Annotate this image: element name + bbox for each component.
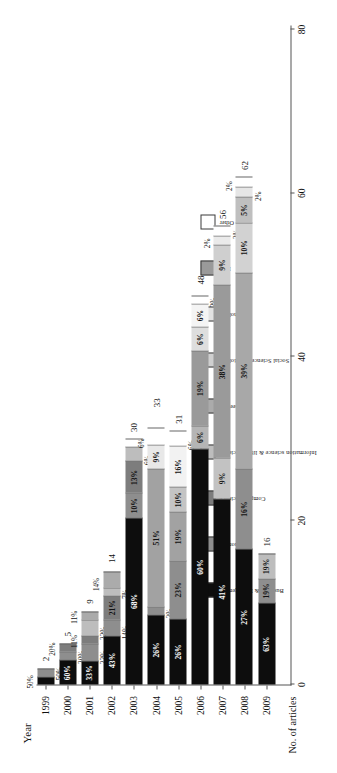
bar-segment[interactable]: 38% [213,285,230,458]
bar-segment[interactable]: 11% [81,635,98,643]
bar-row: 63%19%19% [258,553,275,684]
segment-value-label: 6% [196,309,204,320]
segment-value-label: 60% [196,559,204,574]
stacked-bar[interactable]: 33%22%11%22%11% [81,610,98,684]
bar-segment[interactable]: 6% [191,326,208,350]
bar-segment[interactable]: 16% [235,468,252,548]
bar-segment[interactable]: 5% [235,196,252,221]
bar-segment[interactable]: 50% [37,668,54,676]
value-axis-tick [290,683,294,684]
bar-segment[interactable]: 16% [169,445,186,486]
bar-segment[interactable]: 9% [213,457,230,498]
bar-segment[interactable]: 33% [81,660,98,684]
segment-value-label: 26% [174,644,182,659]
bar-segment[interactable]: 41% [213,498,230,684]
bar-segment[interactable]: 2% [191,295,208,303]
stacked-bar[interactable]: 68%10%13%6% [125,438,142,684]
year-label: 2003 [128,687,138,723]
bar-total-label: 9 [84,599,94,604]
year-label: 2007 [217,687,227,723]
segment-value-label: 39% [240,363,248,378]
bar-segment[interactable]: 10% [169,486,186,511]
bar-segment[interactable]: 20% [59,651,76,659]
legend-item: Computer science [200,475,265,521]
stacked-bar[interactable]: 26%23%19%10%16%6% [169,430,186,684]
bar-segment[interactable]: 27% [235,548,252,684]
bar-segment[interactable]: 19% [169,511,186,559]
year-label: 1999 [40,687,50,723]
bar-total-label: 62 [239,160,249,169]
bar-segment[interactable]: 2% [235,176,252,186]
bar-segment[interactable]: 19% [258,578,275,603]
bar-segment[interactable]: 43% [103,635,120,684]
stacked-bar[interactable]: 27%16%39%10%5%2%2% [235,176,252,684]
bar-segment[interactable]: 9% [147,444,164,468]
segment-value-label: 5% [240,204,248,215]
bar-segment[interactable]: 10% [125,492,142,517]
legend-label: Other [219,219,234,225]
bar-segment[interactable]: 22% [81,643,98,659]
bar-segment[interactable]: 39% [235,272,252,468]
segment-value-label: 11% [71,610,78,623]
segment-value-label: 60% [63,665,71,680]
bar-segment[interactable]: 6% [169,430,186,445]
bar-segment[interactable]: 6% [147,427,164,443]
bar-segment[interactable]: 68% [125,517,142,684]
value-axis-tick-label: 60 [296,188,306,198]
bar-row: 68%10%13%6% [125,438,142,684]
bar-segment[interactable]: 60% [191,448,208,684]
bar-row: 27%16%39%10%5%2%2% [235,176,252,684]
bar-segment[interactable]: 50% [37,676,54,684]
segment-value-label: 9% [152,451,160,462]
stacked-bar[interactable]: 60%6%19%6%6%2% [191,291,208,684]
stacked-bar[interactable]: 26%3%51%9%6% [147,414,164,684]
bar-segment[interactable]: 26% [169,618,186,684]
segment-value-label: 33% [85,665,93,680]
legend-label: Information science & library science [219,449,316,455]
year-label: 2005 [173,687,183,723]
bar-segment[interactable]: 19% [191,350,208,425]
bar-segment[interactable]: 19% [258,553,275,578]
stacked-bar[interactable]: 50%50% [37,668,54,684]
bar-segment[interactable]: 63% [258,602,275,684]
bar-segment[interactable]: 9% [213,244,230,285]
bar-total-label: 33 [151,398,161,407]
value-axis-tick-label: 20 [296,516,306,526]
segment-value-label: 51% [152,530,160,545]
segment-value-label: 27% [240,609,248,624]
year-label: 2006 [195,687,205,723]
bar-segment[interactable]: 6% [191,425,208,449]
bar-row: 60%6%19%6%6%2% [191,291,208,684]
bar-row: 43%14%21%7%14% [103,569,120,684]
bar-segment[interactable]: 10% [235,222,252,272]
bar-segment[interactable]: 2% [235,186,252,196]
bar-row: 33%22%11%22%11% [81,610,98,684]
bar-segment[interactable]: 2% [213,235,230,244]
segment-value-label: 16% [240,501,248,516]
bar-segment[interactable]: 7% [103,587,120,595]
x-axis-title: Year [20,723,32,743]
segment-value-label: 38% [218,364,226,379]
segment-value-label: 14% [93,577,100,590]
stacked-bar[interactable]: 63%19%19% [258,553,275,684]
bar-segment[interactable]: 6% [191,303,208,327]
year-label: 2004 [151,687,161,723]
stacked-bar[interactable]: 43%14%21%7%14% [103,569,120,684]
bar-segment[interactable]: 23% [169,560,186,618]
stacked-bar[interactable]: 60%20%20% [59,643,76,684]
bar-segment[interactable]: 60% [59,659,76,684]
bar-segment[interactable]: 2% [213,225,230,234]
stacked-bar[interactable]: 41%9%38%9%2%2% [213,226,230,685]
bar-segment[interactable]: 14% [103,619,120,635]
bar-segment[interactable]: 3% [147,606,164,614]
bar-segment[interactable]: 21% [103,595,120,619]
segment-value-label: 13% [130,469,138,484]
value-axis-tick-label: 40 [296,352,306,362]
bar-segment[interactable]: 14% [103,571,120,587]
bar-segment[interactable]: 51% [147,468,164,606]
bar-segment[interactable]: 11% [81,611,98,619]
bar-segment[interactable]: 22% [81,619,98,635]
bar-segment[interactable]: 13% [125,461,142,493]
segment-value-label: 50% [27,675,34,688]
bar-segment[interactable]: 26% [147,614,164,684]
